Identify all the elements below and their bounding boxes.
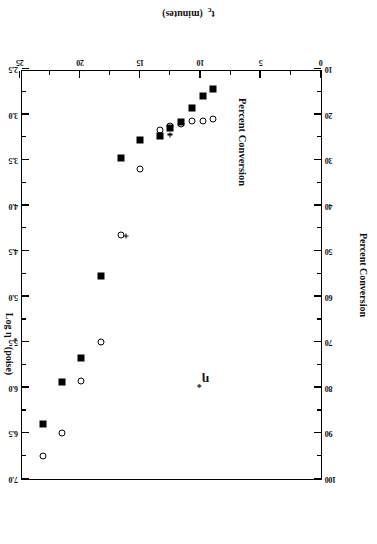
left-tick-mark — [314, 250, 321, 251]
right-minor-tick-mark — [22, 136, 26, 137]
right-tick-mark — [22, 113, 29, 114]
data-point-open-circle — [39, 453, 46, 460]
data-point-open-circle — [137, 166, 144, 173]
bottom-minor-tick-mark — [49, 71, 50, 75]
right-tick-mark — [22, 432, 29, 433]
left-tick-mark — [314, 68, 321, 69]
right-minor-tick-mark — [22, 409, 26, 410]
bottom-tick-label: 20 — [77, 58, 84, 67]
right-minor-tick-mark — [22, 364, 26, 365]
right-tick-label: 5.5 — [9, 338, 18, 347]
left-axis-title: Percent Conversion — [358, 233, 369, 317]
data-point-filled-square — [39, 421, 46, 428]
left-minor-tick-mark — [317, 227, 321, 228]
bottom-tick-label: 0 — [319, 58, 323, 67]
left-tick-label: 60 — [325, 292, 332, 301]
plot-frame: 102030405060708090100 2.53.03.54.04.55.0… — [21, 70, 322, 480]
data-point-filled-square — [137, 137, 144, 144]
data-point-open-circle — [200, 118, 207, 125]
data-point-open-circle — [59, 430, 66, 437]
right-minor-tick-mark — [22, 91, 26, 92]
bottom-tick-label: 5 — [259, 58, 263, 67]
bottom-minor-tick-mark — [169, 71, 170, 75]
bottom-tick-mark — [320, 71, 321, 78]
right-tick-label: 4.5 — [9, 247, 18, 256]
left-minor-tick-mark — [317, 182, 321, 183]
bottom-tick-mark — [199, 71, 200, 78]
right-axis-title-unit: (poise) — [4, 347, 15, 375]
right-tick-mark — [22, 68, 29, 69]
bottom-tick-mark — [79, 71, 80, 78]
left-minor-tick-mark — [317, 318, 321, 319]
data-point-open-circle — [189, 118, 196, 125]
bottom-tick-mark — [19, 71, 20, 78]
right-tick-mark — [22, 204, 29, 205]
bottom-tick-mark — [139, 71, 140, 78]
left-minor-tick-mark — [317, 273, 321, 274]
left-tick-label: 50 — [325, 247, 332, 256]
left-minor-tick-mark — [317, 136, 321, 137]
left-minor-tick-mark — [317, 455, 321, 456]
data-point-filled-square — [78, 354, 85, 361]
left-tick-label: 10 — [325, 65, 332, 74]
left-tick-mark — [314, 432, 321, 433]
right-tick-label: 3.0 — [9, 110, 18, 119]
right-tick-mark — [22, 250, 29, 251]
left-tick-mark — [314, 478, 321, 479]
left-tick-mark — [314, 159, 321, 160]
figure-rotator: Percent Conversion Log η* (poise) tc (mi… — [0, 0, 377, 544]
right-minor-tick-mark — [22, 227, 26, 228]
data-point-open-circle — [209, 116, 216, 123]
right-tick-label: 6.5 — [9, 429, 18, 438]
right-axis-title-main: Log η — [4, 313, 15, 338]
right-tick-mark — [22, 159, 29, 160]
bottom-tick-label: 25 — [16, 58, 23, 67]
eta-glyph: η — [202, 372, 209, 387]
bottom-minor-tick-mark — [230, 71, 231, 75]
right-tick-label: 5.0 — [9, 292, 18, 301]
right-tick-label: 6.0 — [9, 383, 18, 392]
bottom-axis-title-subscript: c — [208, 6, 212, 15]
data-point-open-circle — [97, 339, 104, 346]
left-tick-mark — [314, 113, 321, 114]
left-minor-tick-mark — [317, 409, 321, 410]
bottom-minor-tick-mark — [290, 71, 291, 75]
data-point-plus — [123, 233, 128, 238]
bottom-tick-mark — [259, 71, 260, 78]
data-point-filled-square — [118, 155, 125, 162]
left-tick-mark — [314, 387, 321, 388]
data-point-filled-square — [189, 105, 196, 112]
right-minor-tick-mark — [22, 455, 26, 456]
data-point-filled-square — [178, 118, 185, 125]
right-minor-tick-mark — [22, 182, 26, 183]
data-point-open-circle — [78, 378, 85, 385]
data-point-plus — [168, 132, 173, 137]
left-tick-label: 20 — [325, 110, 332, 119]
data-point-filled-square — [156, 133, 163, 140]
left-tick-label: 90 — [325, 429, 332, 438]
eta-star-label: η* — [197, 371, 209, 389]
data-point-filled-square — [167, 125, 174, 132]
data-point-filled-square — [59, 378, 66, 385]
right-tick-label: 7.0 — [9, 475, 18, 484]
right-tick-mark — [22, 295, 29, 296]
eta-star-superscript: * — [197, 379, 202, 390]
left-tick-label: 70 — [325, 338, 332, 347]
right-tick-mark — [22, 341, 29, 342]
left-tick-label: 30 — [325, 156, 332, 165]
left-minor-tick-mark — [317, 364, 321, 365]
data-point-filled-square — [209, 86, 216, 93]
bottom-axis-title: tc (minutes) — [162, 6, 215, 20]
bottom-tick-label: 10 — [197, 58, 204, 67]
left-tick-label: 40 — [325, 201, 332, 210]
right-minor-tick-mark — [22, 273, 26, 274]
right-tick-mark — [22, 478, 29, 479]
data-point-filled-square — [200, 93, 207, 100]
left-tick-label: 100 — [325, 475, 336, 484]
bottom-axis-title-main: t — [211, 9, 214, 20]
left-minor-tick-mark — [317, 91, 321, 92]
right-tick-label: 3.5 — [9, 156, 18, 165]
percent-conversion-label: Percent Conversion — [236, 98, 247, 186]
right-tick-mark — [22, 387, 29, 388]
left-tick-mark — [314, 341, 321, 342]
